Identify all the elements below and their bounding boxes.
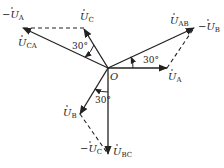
phasor-ub — [80, 68, 108, 114]
label-ub: UB — [63, 107, 77, 120]
phasor-diagram: −UA UCA UC 30° UAB −UB 30° UA O 30° UB −… — [0, 0, 224, 168]
label-uc: UC — [80, 11, 94, 24]
angle-arc-a — [131, 57, 133, 68]
label-origin: O — [110, 71, 118, 82]
label-ua: UA — [168, 71, 182, 84]
angle-arc-b — [95, 89, 108, 92]
label-uca: UCA — [18, 37, 38, 50]
label-ubc: UBC — [113, 146, 132, 159]
label-angle-c: 30° — [72, 41, 88, 51]
label-angle-b: 30° — [95, 95, 111, 105]
label-neg-ua: −UA — [2, 9, 25, 22]
label-angle-a: 30° — [143, 55, 159, 65]
label-neg-ub: −UB — [198, 21, 220, 34]
phasor-svg: −UA UCA UC 30° UAB −UB 30° UA O 30° UB −… — [0, 0, 224, 168]
label-neg-uc: −UC — [80, 143, 102, 156]
label-uab: UAB — [170, 15, 189, 28]
